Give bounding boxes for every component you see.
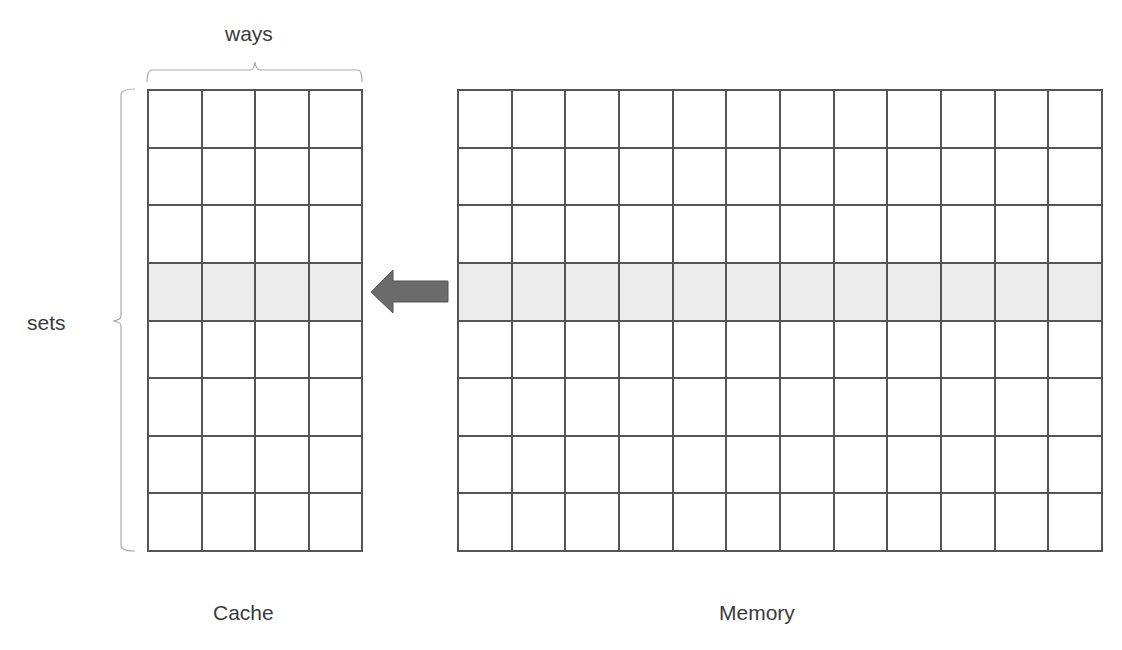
cache-cell: [256, 379, 310, 437]
memory-cell-highlighted: [1049, 264, 1103, 322]
memory-cell: [674, 494, 728, 552]
memory-cell-highlighted: [996, 264, 1050, 322]
memory-cell: [835, 437, 889, 495]
memory-cell: [620, 91, 674, 149]
memory-cell: [888, 91, 942, 149]
memory-cell-highlighted: [566, 264, 620, 322]
cache-cell: [310, 437, 364, 495]
memory-cell: [674, 379, 728, 437]
memory-cell: [1049, 379, 1103, 437]
cache-cell: [256, 206, 310, 264]
memory-cell: [566, 91, 620, 149]
memory-cell: [781, 322, 835, 380]
cache-cell: [203, 206, 257, 264]
memory-cell-highlighted: [942, 264, 996, 322]
memory-cell: [835, 379, 889, 437]
memory-cell: [727, 494, 781, 552]
memory-cell: [566, 437, 620, 495]
left-arrow-icon: [371, 270, 448, 313]
cache-cell-highlighted: [310, 264, 364, 322]
cache-cell: [310, 206, 364, 264]
memory-cell: [620, 494, 674, 552]
memory-cell: [996, 91, 1050, 149]
cache-cell: [149, 149, 203, 207]
cache-cell: [149, 91, 203, 149]
cache-cell: [203, 437, 257, 495]
cache-grid: [147, 89, 363, 552]
cache-cell: [149, 379, 203, 437]
memory-cell: [942, 494, 996, 552]
cache-cell: [310, 379, 364, 437]
cache-cell: [203, 91, 257, 149]
memory-cell: [459, 437, 513, 495]
memory-cell: [727, 437, 781, 495]
memory-cell: [566, 322, 620, 380]
cache-cell: [149, 437, 203, 495]
cache-cell: [310, 322, 364, 380]
memory-cell: [459, 149, 513, 207]
cache-cell: [256, 149, 310, 207]
memory-cell: [513, 206, 567, 264]
memory-cell: [996, 437, 1050, 495]
memory-cell: [1049, 206, 1103, 264]
memory-cell: [942, 206, 996, 264]
memory-cell: [459, 379, 513, 437]
memory-cell: [459, 91, 513, 149]
memory-cell-highlighted: [513, 264, 567, 322]
memory-cell: [888, 379, 942, 437]
cache-cell: [203, 379, 257, 437]
memory-cell: [513, 322, 567, 380]
memory-cell: [781, 206, 835, 264]
memory-cell: [513, 494, 567, 552]
cache-cell: [310, 494, 364, 552]
cache-cell: [203, 494, 257, 552]
memory-cell: [727, 149, 781, 207]
memory-cell: [888, 437, 942, 495]
memory-cell: [566, 379, 620, 437]
memory-cell: [942, 149, 996, 207]
memory-cell: [727, 379, 781, 437]
memory-cell: [620, 322, 674, 380]
cache-cell: [256, 494, 310, 552]
memory-cell: [888, 494, 942, 552]
memory-cell-highlighted: [620, 264, 674, 322]
memory-cell: [888, 322, 942, 380]
memory-cell: [566, 149, 620, 207]
cache-cell: [310, 149, 364, 207]
memory-grid: [457, 89, 1103, 552]
memory-cell: [1049, 494, 1103, 552]
cache-cell: [256, 322, 310, 380]
memory-cell-highlighted: [727, 264, 781, 322]
memory-cell: [781, 379, 835, 437]
memory-cell: [513, 149, 567, 207]
ways-bracket-icon: [147, 62, 362, 82]
memory-cell: [674, 322, 728, 380]
memory-cell: [781, 91, 835, 149]
memory-cell: [674, 91, 728, 149]
memory-cell: [996, 379, 1050, 437]
memory-cell: [1049, 91, 1103, 149]
memory-cell: [620, 149, 674, 207]
cache-cell-highlighted: [149, 264, 203, 322]
memory-cell-highlighted: [459, 264, 513, 322]
memory-cell: [727, 91, 781, 149]
memory-cell: [996, 494, 1050, 552]
cache-cell: [149, 322, 203, 380]
memory-cell: [674, 149, 728, 207]
memory-cell: [942, 91, 996, 149]
memory-cell: [459, 322, 513, 380]
memory-cell: [888, 149, 942, 207]
memory-cell: [459, 494, 513, 552]
memory-cell: [566, 206, 620, 264]
memory-cell: [835, 91, 889, 149]
memory-cell: [459, 206, 513, 264]
cache-cell: [256, 91, 310, 149]
memory-cell: [620, 379, 674, 437]
memory-cell: [888, 206, 942, 264]
memory-cell: [620, 437, 674, 495]
cache-cell: [203, 322, 257, 380]
memory-cell: [781, 437, 835, 495]
memory-cell: [835, 322, 889, 380]
memory-cell: [727, 206, 781, 264]
memory-cell: [1049, 322, 1103, 380]
